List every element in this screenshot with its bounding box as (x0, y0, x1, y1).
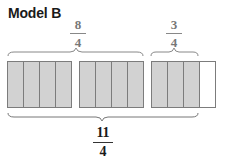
fraction-eleven-fourths: 11 4 (93, 126, 113, 159)
fraction-bar (93, 142, 113, 143)
denominator: 4 (93, 145, 113, 159)
numerator: 11 (93, 126, 113, 140)
